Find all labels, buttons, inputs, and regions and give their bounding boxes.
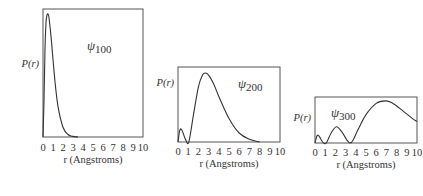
plot-frame <box>315 97 417 143</box>
x-tick-label: 0 <box>312 147 317 158</box>
x-tick-label: 9 <box>404 147 409 158</box>
x-tick-label: 2 <box>60 142 65 153</box>
panel-psi300: P(r) ψ300 012345678910 r (Angstroms) <box>293 97 423 171</box>
x-tick-label: 10 <box>412 147 423 158</box>
x-axis-label: r (Angstroms) <box>199 158 259 170</box>
x-tick-label: 2 <box>333 147 338 158</box>
x-tick-label: 8 <box>394 147 399 158</box>
x-tick-label: 5 <box>363 147 368 158</box>
x-tick-label: 5 <box>90 142 95 153</box>
panel-psi100: P(r) ψ100 012345678910 r (Angstroms) <box>21 9 149 166</box>
x-tick-label: 6 <box>374 147 379 158</box>
x-tick-label: 7 <box>384 147 389 158</box>
probability-curve <box>43 14 78 137</box>
x-tick-labels: 012345678910 <box>175 146 285 157</box>
orbital-label: ψ300 <box>331 105 356 122</box>
x-tick-label: 6 <box>100 142 105 153</box>
x-tick-label: 4 <box>353 147 359 158</box>
x-tick-label: 8 <box>120 142 125 153</box>
x-tick-label: 10 <box>275 146 286 157</box>
x-tick-label: 3 <box>206 146 211 157</box>
x-tick-label: 9 <box>130 142 135 153</box>
x-axis-label: r (Angstroms) <box>336 159 396 171</box>
x-tick-label: 1 <box>186 146 191 157</box>
x-tick-label: 7 <box>110 142 115 153</box>
y-axis-label: P(r) <box>21 58 40 70</box>
x-tick-label: 0 <box>40 142 45 153</box>
radial-probability-figure: P(r) ψ100 012345678910 r (Angstroms) P(r… <box>0 0 423 196</box>
x-tick-label: 6 <box>237 146 242 157</box>
x-axis-label: r (Angstroms) <box>63 154 123 166</box>
x-tick-label: 3 <box>70 142 75 153</box>
x-tick-label: 0 <box>175 146 180 157</box>
x-tick-label: 10 <box>138 142 149 153</box>
y-axis-label: P(r) <box>293 112 312 124</box>
x-tick-label: 8 <box>257 146 262 157</box>
x-tick-label: 2 <box>196 146 201 157</box>
x-tick-label: 5 <box>226 146 231 157</box>
panel-psi200: P(r) ψ200 012345678910 r (Angstroms) <box>156 67 286 170</box>
x-tick-label: 1 <box>50 142 55 153</box>
x-tick-label: 4 <box>80 142 86 153</box>
plot-frame <box>178 67 280 142</box>
y-axis-label: P(r) <box>156 77 175 89</box>
x-tick-label: 4 <box>216 146 222 157</box>
orbital-label: ψ100 <box>87 38 112 55</box>
plot-frame <box>43 9 143 137</box>
x-tick-labels: 012345678910 <box>40 142 148 153</box>
x-tick-label: 3 <box>343 147 348 158</box>
x-tick-label: 1 <box>323 147 328 158</box>
x-tick-label: 9 <box>267 146 272 157</box>
x-tick-labels: 012345678910 <box>312 147 422 158</box>
orbital-label: ψ200 <box>238 76 263 93</box>
x-tick-label: 7 <box>247 146 252 157</box>
